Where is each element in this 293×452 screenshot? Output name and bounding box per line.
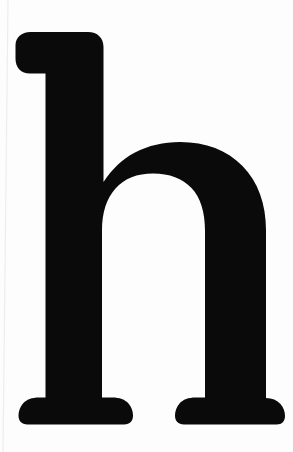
- glyph-layer: [0, 0, 293, 452]
- letter-specimen-canvas: h A large black lowercase serif letter h…: [0, 0, 293, 452]
